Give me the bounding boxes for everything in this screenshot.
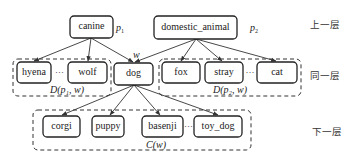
layer-label-same: 同一层 [310, 70, 340, 81]
node-label: dog [126, 67, 141, 78]
node-fox: fox [162, 62, 200, 83]
label-p2: p2 [249, 22, 258, 34]
node-toy-dog: toy_dog [194, 116, 242, 137]
node-corgi: corgi [43, 116, 80, 137]
node-label: basenji [148, 120, 177, 131]
node-domestic-animal: domestic_animal [154, 16, 237, 39]
layer-label-upper: 上一层 [310, 19, 340, 30]
node-canine: canine [70, 16, 113, 38]
node-label: toy_dog [202, 120, 235, 131]
node-basenji: basenji [142, 116, 183, 137]
edge-canine-wolf [88, 38, 91, 61]
layer-label-lower: 下一层 [312, 126, 342, 137]
node-label: domestic_animal [161, 21, 230, 32]
node-label: hyena [22, 66, 46, 77]
node-label: stray [214, 66, 233, 77]
taxonomy-diagram: canine domestic_animal hyena wolf dog fo… [0, 0, 348, 163]
edge-canine-hyena [34, 38, 91, 61]
node-label: corgi [51, 120, 72, 131]
node-label: puppy [96, 120, 121, 131]
label-p1: p1 [115, 22, 124, 34]
node-label: wolf [78, 66, 97, 77]
node-cat: cat [257, 62, 297, 83]
label-w: w [133, 49, 140, 60]
edge-canine-dog [91, 38, 133, 62]
ellipsis-left: ··· [55, 67, 64, 77]
node-dog: dog [114, 63, 153, 85]
ellipsis-bottom: ··· [184, 121, 193, 131]
label-group-left: D(p₁, w) [49, 84, 85, 96]
node-label: fox [174, 66, 187, 77]
ellipsis-right: ··· [246, 67, 255, 77]
node-stray: stray [205, 62, 243, 83]
edge-domestic-cat [196, 39, 276, 61]
label-group-bottom: C(w) [146, 139, 167, 151]
node-hyena: hyena [17, 62, 51, 83]
node-wolf: wolf [68, 62, 107, 83]
node-puppy: puppy [92, 116, 124, 137]
node-label: cat [271, 66, 283, 77]
node-label: canine [78, 20, 105, 31]
label-group-right: D(p₂, w) [212, 84, 248, 96]
